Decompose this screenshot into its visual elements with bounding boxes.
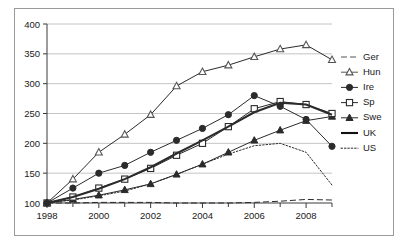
x-axis-label-2000: 2000 [88, 210, 109, 221]
legend-item-ire[interactable]: Ire [341, 81, 374, 92]
legend-item-ger[interactable]: Ger [341, 51, 379, 62]
marker-ire-2000 [96, 170, 102, 176]
legend-item-uk[interactable]: UK [341, 127, 377, 138]
series-line-uk [47, 103, 332, 203]
marker-ire-2006 [251, 93, 257, 99]
marker-ire-2002 [148, 149, 154, 155]
series-sp [44, 98, 335, 206]
chart-canvas: 1001502002503003504001998200020022004200… [0, 0, 408, 245]
series-ger [47, 199, 332, 203]
marker-hun-2001 [121, 131, 128, 137]
legend-item-sp[interactable]: Sp [341, 96, 375, 107]
x-axis-label-1998: 1998 [36, 210, 57, 221]
legend-label-swe: Swe [363, 111, 381, 122]
y-axis-label-200: 200 [24, 138, 40, 149]
x-axis-label-2008: 2008 [296, 210, 317, 221]
x-axis-label-2006: 2006 [244, 210, 265, 221]
marker-hun-2000 [95, 149, 102, 155]
y-axis-label-250: 250 [24, 108, 40, 119]
marker-ire-2008 [303, 116, 309, 122]
marker-ire-2009 [329, 143, 335, 149]
series-line-swe [47, 116, 332, 203]
marker-hun-2009 [329, 56, 336, 62]
x-axis-label-2004: 2004 [192, 210, 213, 221]
legend-label-us: US [363, 142, 376, 153]
marker-ire-2004 [199, 125, 205, 131]
legend-item-swe[interactable]: Swe [341, 111, 381, 122]
legend-item-us[interactable]: US [341, 142, 376, 153]
legend-label-uk: UK [363, 127, 377, 138]
y-axis-label-400: 400 [24, 19, 40, 30]
y-axis-label-350: 350 [24, 48, 40, 59]
series-line-sp [47, 102, 332, 203]
y-axis-label-150: 150 [24, 168, 40, 179]
y-axis-label-300: 300 [24, 78, 40, 89]
series-line-hun [47, 45, 332, 203]
legend-marker-sp [346, 100, 352, 106]
marker-ire-2001 [122, 162, 128, 168]
legend-marker-ire [346, 84, 352, 90]
series-hun [44, 41, 336, 206]
marker-ire-1999 [70, 185, 76, 191]
marker-swe-2005 [225, 149, 232, 155]
legend-item-hun[interactable]: Hun [341, 66, 380, 77]
marker-ire-2005 [225, 112, 231, 118]
legend-label-hun: Hun [363, 66, 380, 77]
marker-hun-2008 [303, 41, 310, 47]
legend-label-ire: Ire [363, 81, 374, 92]
legend-label-sp: Sp [363, 96, 375, 107]
x-axis-label-2002: 2002 [140, 210, 161, 221]
y-axis-label-100: 100 [24, 198, 40, 209]
legend-label-ger: Ger [363, 51, 379, 62]
marker-ire-2003 [173, 137, 179, 143]
series-uk [47, 103, 332, 203]
series-line-ger [47, 199, 332, 203]
line-chart: 1001502002503003504001998200020022004200… [0, 0, 408, 245]
